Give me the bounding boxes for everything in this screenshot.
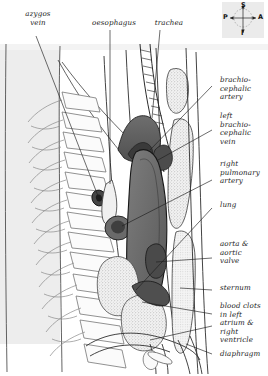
label-blood-clots: blood clots in left atrium & right ventr… (220, 302, 268, 345)
anatomical-figure: P A S I azygos vein oesophagus trachea b… (0, 0, 268, 376)
label-right-pulmonary-artery: right pulmonary artery (220, 160, 268, 186)
label-diaphragm: diaphragm (220, 350, 268, 359)
label-lung: lung (220, 201, 268, 210)
label-brachiocephalic-artery: brachio- cephalic artery (220, 76, 268, 102)
compass-superior-label: S (241, 1, 246, 9)
label-aorta-and-aortic-valve: aorta & aortic valve (220, 240, 268, 266)
label-sternum: sternum (220, 284, 268, 293)
label-left-brachiocephalic-vein: left brachio- cephalic vein (220, 112, 268, 146)
label-trachea: trachea (147, 19, 191, 28)
compass-inferior-label: I (241, 29, 243, 37)
abdominal-contents (143, 349, 173, 369)
orientation-compass: P A S I (222, 2, 264, 38)
compass-anterior-label: A (258, 13, 263, 21)
label-oesophagus: oesophagus (86, 19, 142, 28)
compass-posterior-label: P (223, 13, 228, 21)
label-azygos-vein: azygos vein (12, 10, 64, 27)
